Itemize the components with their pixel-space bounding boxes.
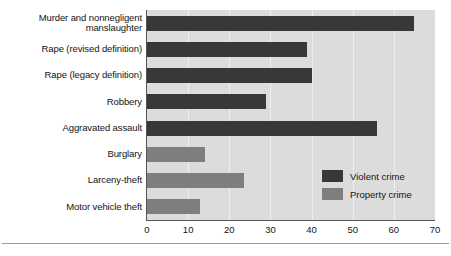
bar — [147, 42, 307, 57]
y-axis-category-labels: Murder and nonnegligent manslaughterRape… — [0, 10, 142, 220]
y-axis-line — [146, 10, 147, 221]
bar — [147, 16, 414, 31]
y-axis-label: Rape (revised definition) — [0, 44, 142, 55]
y-axis-label: Burglary — [0, 149, 142, 160]
x-tick-label: 0 — [127, 224, 167, 235]
bar — [147, 94, 266, 109]
x-tick-label: 30 — [250, 224, 290, 235]
legend-swatch-icon — [322, 188, 343, 200]
bar — [147, 68, 312, 83]
bar — [147, 147, 205, 162]
x-tick-label: 40 — [292, 224, 332, 235]
horizontal-rule — [2, 243, 449, 244]
y-axis-label: Murder and nonnegligent manslaughter — [0, 13, 142, 34]
legend-swatch-icon — [322, 170, 343, 182]
bar — [147, 173, 244, 188]
bar-chart-figure: Murder and nonnegligent manslaughterRape… — [0, 0, 451, 256]
x-tick-label: 10 — [168, 224, 208, 235]
legend-item: Violent crime — [322, 168, 430, 184]
gridline-40 — [312, 10, 313, 220]
chart-legend: Violent crimeProperty crime — [322, 168, 430, 204]
y-axis-label: Robbery — [0, 97, 142, 108]
x-tick-label: 20 — [209, 224, 249, 235]
legend-label: Violent crime — [350, 171, 405, 182]
y-axis-label: Rape (legacy definition) — [0, 70, 142, 81]
bar — [147, 199, 200, 214]
legend-label: Property crime — [350, 189, 412, 200]
y-axis-label: Larceny-theft — [0, 175, 142, 186]
bar — [147, 121, 377, 136]
x-axis-line — [146, 220, 435, 221]
y-axis-label: Motor vehicle theft — [0, 202, 142, 213]
y-axis-label: Aggravated assault — [0, 123, 142, 134]
x-tick-label: 50 — [333, 224, 373, 235]
legend-item: Property crime — [322, 186, 430, 202]
x-tick-label: 60 — [374, 224, 414, 235]
x-axis-tick-labels: 010203040506070 — [0, 224, 451, 240]
x-tick-label: 70 — [415, 224, 451, 235]
